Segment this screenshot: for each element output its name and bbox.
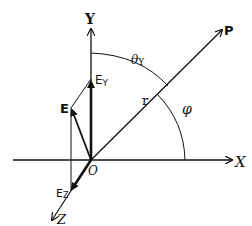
x-axis-label: X [234,153,247,171]
ey-label-sub: Y [102,78,109,88]
coordinate-diagram: Y X Z O P r E EY EZ θY φ [0,0,252,226]
origin-label: O [88,164,98,178]
e-vector [72,110,91,160]
z-axis-label: Z [56,212,67,226]
phi-label: φ [182,101,192,117]
e-label: E [60,101,69,116]
ez-label-sub: Z [63,191,69,200]
ey-label-main: E [95,73,103,87]
phi-arc [158,95,185,160]
p-label: P [224,23,234,38]
op-line [91,30,222,160]
ez-label: EZ [56,187,69,200]
ez-label-main: E [56,187,63,200]
y-axis-label: Y [84,11,96,27]
ey-label: EY [95,73,109,88]
theta-y-label: θY [131,53,145,67]
r-label: r [142,93,149,108]
theta-label-sub: Y [137,57,145,67]
e-to-ey-projection [71,79,91,108]
